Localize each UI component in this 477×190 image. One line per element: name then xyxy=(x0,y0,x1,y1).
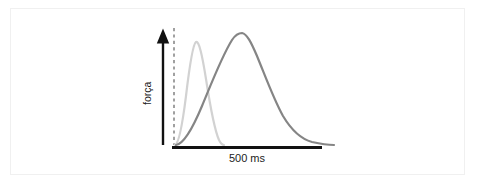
y-axis-label: força xyxy=(141,81,153,105)
figure-root: força 500 ms xyxy=(0,0,477,190)
y-axis-arrow xyxy=(157,29,169,146)
force-curve-fast-light xyxy=(175,42,224,145)
time-scale-bar-label: 500 ms xyxy=(229,152,266,164)
force-curves-plot: força 500 ms xyxy=(0,0,477,190)
